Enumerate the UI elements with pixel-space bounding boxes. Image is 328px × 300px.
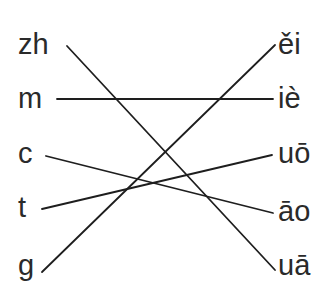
right-label-uo: uō	[278, 139, 310, 168]
right-label-ie: iè	[278, 84, 301, 113]
left-label-c: c	[18, 139, 33, 168]
connector-g-ei	[42, 45, 275, 272]
left-label-zh: zh	[18, 30, 49, 59]
matching-diagram: zh m c t g ěi iè uō āo uā	[0, 0, 328, 300]
left-label-m: m	[18, 84, 42, 113]
connector-zh-ua	[67, 46, 275, 270]
right-label-ua: uā	[278, 251, 310, 280]
connector-c-ao	[46, 156, 273, 213]
right-label-ao: āo	[278, 197, 310, 226]
left-label-g: g	[18, 251, 34, 280]
right-label-ei: ěi	[278, 30, 301, 59]
left-label-t: t	[18, 193, 26, 222]
